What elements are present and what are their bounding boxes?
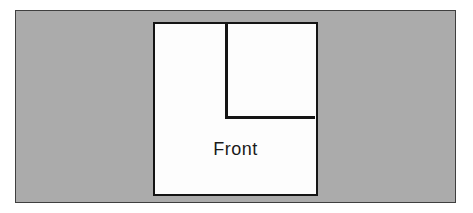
figure-canvas: Front xyxy=(0,0,473,213)
interior-wall-horizontal-line xyxy=(225,116,315,119)
front-label: Front xyxy=(155,139,316,160)
interior-wall-vertical-line xyxy=(225,24,228,118)
shaded-panel: Front xyxy=(15,10,456,203)
floor-plan-outline: Front xyxy=(153,22,318,196)
